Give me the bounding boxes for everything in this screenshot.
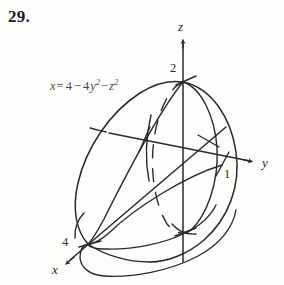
axis-tick-marks: [79, 76, 229, 247]
equation-lhs: x: [50, 79, 56, 93]
trace-x0-ellipse: [152, 82, 217, 233]
trace-y0-upper: [88, 82, 183, 244]
x-intercept-label: 4: [62, 236, 68, 249]
y-axis: [109, 133, 252, 162]
y-axis-label: y: [262, 156, 268, 169]
equation-y-coeff: 4: [82, 79, 90, 93]
equation-equals: =: [56, 79, 65, 93]
equation-minus-2: −: [100, 79, 109, 93]
equation-z-exponent: 2: [114, 77, 118, 87]
y-axis-arrowhead: [244, 160, 252, 162]
x-axis-line: [70, 127, 226, 260]
z-intercept-label: 2: [170, 62, 176, 75]
trace-x0-left-half-hidden: [152, 82, 185, 233]
trace-z0-front: [88, 165, 222, 244]
detail-arc-left: [147, 115, 151, 181]
figure-container: 29.: [0, 0, 284, 285]
x-axis-arrowhead: [66, 257, 74, 264]
equation-minus-1: −: [73, 79, 82, 93]
surface-equation-label: x=4−4y2−z2: [50, 80, 118, 93]
equation-constant: 4: [65, 79, 73, 93]
trace-y0-lower: [88, 233, 185, 249]
z-axis-label: z: [178, 20, 183, 33]
y-intercept-label: 1: [224, 168, 230, 181]
x-axis-label: x: [52, 263, 58, 276]
quadric-surface-diagram: [0, 0, 284, 285]
y-axis-line: [109, 133, 250, 161]
sketch-detail-arcs: [75, 115, 196, 238]
